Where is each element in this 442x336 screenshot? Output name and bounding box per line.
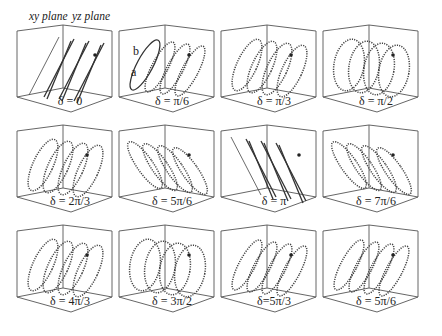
trajectory xyxy=(22,135,109,200)
direction-arrow-icon xyxy=(93,53,97,57)
polarization-figure: xy plane yz plane δ = 0δ = π/6δ = π/3δ =… xyxy=(0,0,442,336)
direction-arrow-icon xyxy=(187,253,191,257)
direction-arrow-icon xyxy=(289,253,293,257)
delta-label: δ = 0 xyxy=(58,94,82,108)
panel-4: δ = 2π/3 xyxy=(17,125,112,212)
delta-label: δ=5π/3 xyxy=(257,294,291,308)
panel-11: δ = 5π/6 xyxy=(323,225,418,312)
direction-arrow-icon xyxy=(391,253,395,257)
direction-arrow-icon xyxy=(85,153,89,157)
panel-3: δ = π/2 xyxy=(323,25,418,112)
yz-plane-label: yz plane xyxy=(71,10,110,23)
direction-arrow-icon xyxy=(391,153,395,157)
panel-2: δ = π/3 xyxy=(221,25,316,112)
delta-label: δ = π/3 xyxy=(257,94,291,108)
delta-label: δ = 3π/2 xyxy=(152,294,192,308)
trajectory xyxy=(126,237,210,299)
trajectory xyxy=(330,37,414,99)
trajectory xyxy=(227,237,312,300)
trajectory xyxy=(326,137,416,198)
panel-8: δ = 4π/3 xyxy=(17,225,112,312)
delta-label: δ = 5π/6 xyxy=(356,294,396,308)
axis-b-label: b xyxy=(133,44,139,58)
delta-label: δ = π/2 xyxy=(359,94,393,108)
trajectory xyxy=(22,235,109,300)
panel-0: δ = 0 xyxy=(17,25,112,112)
trajectory xyxy=(122,137,212,198)
delta-label: δ = π/6 xyxy=(155,94,189,108)
direction-arrow-icon xyxy=(297,153,301,157)
panel-9: δ = 3π/2 xyxy=(119,225,214,312)
delta-label: δ = 5π/6 xyxy=(152,194,192,208)
direction-arrow-icon xyxy=(187,53,191,57)
trajectory xyxy=(226,35,313,100)
panel-7: δ = 7π/6 xyxy=(323,125,418,212)
trajectory xyxy=(329,237,414,300)
delta-label: δ = π xyxy=(262,194,286,208)
delta-label: δ = 7π/6 xyxy=(356,194,396,208)
panel-6: δ = π xyxy=(221,125,316,212)
direction-arrow-icon xyxy=(391,53,395,57)
panel-10: δ=5π/3 xyxy=(221,225,316,312)
delta-label: δ = 4π/3 xyxy=(50,294,90,308)
axis-a-label: a xyxy=(131,65,137,79)
direction-arrow-icon xyxy=(289,53,293,57)
delta-label: δ = 2π/3 xyxy=(50,194,90,208)
direction-arrow-icon xyxy=(85,253,89,257)
xy-plane-label: xy plane xyxy=(28,10,68,23)
direction-arrow-icon xyxy=(187,153,191,157)
panel-grid: δ = 0δ = π/6δ = π/3δ = π/2δ = 2π/3δ = 5π… xyxy=(17,25,418,312)
panel-5: δ = 5π/6 xyxy=(119,125,214,212)
